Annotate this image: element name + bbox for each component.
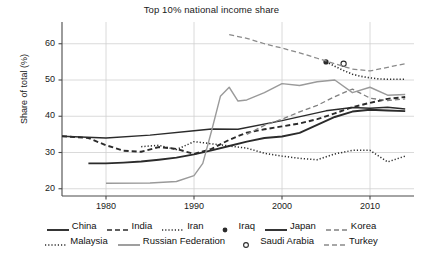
chart-legend: ChinaIndiaIranIraqJapanKoreaMalaysiaRuss… [0,218,423,248]
legend-swatch-dotted-icon [45,236,67,246]
legend-swatch-solid-icon [47,221,69,231]
legend-label: India [132,220,153,231]
legend-label: Turkey [349,235,378,246]
marker [222,227,227,232]
legend-label: Japan [290,220,316,231]
legend-row: MalaysiaRussian FederationSaudi ArabiaTu… [0,233,423,248]
legend-item-japan[interactable]: Japan [265,220,316,231]
legend-swatch-dashed-icon [326,221,348,231]
marker [244,242,249,247]
series-line-malaysia [141,142,405,162]
legend-swatch-marker-open-icon [235,236,257,246]
legend-item-russian-federation[interactable]: Russian Federation [118,235,225,246]
y-tick-label: 40 [33,110,55,120]
legend-label: Malaysia [70,235,108,246]
legend-item-iraq[interactable]: Iraq [214,220,255,231]
legend-label: Iraq [239,220,255,231]
legend-label: Russian Federation [143,235,225,246]
legend-swatch-dotted-icon [162,221,184,231]
legend-label: Iran [187,220,203,231]
legend-item-turkey[interactable]: Turkey [324,235,378,246]
y-tick-label: 20 [33,183,55,193]
y-tick-label: 50 [33,74,55,84]
legend-label: Saudi Arabia [260,235,314,246]
legend-item-malaysia[interactable]: Malaysia [45,235,108,246]
legend-item-iran[interactable]: Iran [162,220,203,231]
legend-swatch-solid-icon [265,221,287,231]
y-tick-label: 60 [33,38,55,48]
x-tick-label: 1990 [174,201,214,211]
series-line-turkey [229,35,405,71]
legend-item-saudi-arabia[interactable]: Saudi Arabia [235,235,314,246]
x-tick-label: 1980 [86,201,126,211]
y-tick-label: 30 [33,147,55,157]
legend-swatch-marker-filled-icon [214,221,236,231]
legend-swatch-dashed-icon [107,221,129,231]
legend-label: Korea [351,220,376,231]
x-tick-label: 2000 [262,201,302,211]
legend-label: China [72,220,97,231]
legend-item-korea[interactable]: Korea [326,220,376,231]
legend-item-india[interactable]: India [107,220,153,231]
x-tick-label: 2010 [350,201,390,211]
chart-figure: Top 10% national income share Share of t… [0,0,423,259]
legend-item-china[interactable]: China [47,220,97,231]
legend-row: ChinaIndiaIranIraqJapanKorea [0,218,423,233]
legend-swatch-dashed-icon [324,236,346,246]
legend-swatch-solid-icon [118,236,140,246]
